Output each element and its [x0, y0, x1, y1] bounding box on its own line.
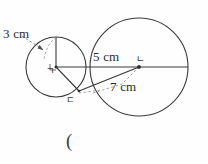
- figure-canvas: [0, 0, 208, 164]
- intersection-dot: [78, 90, 81, 93]
- small-center-to-intersection-line: [56, 67, 79, 91]
- three-cm-dashed-arc: [44, 37, 56, 60]
- large-center-dot: [137, 65, 141, 69]
- point-label-large-center: ㄴ: [136, 54, 145, 64]
- radius-large-label: 5 cm: [93, 50, 119, 63]
- three-cm-arrow-icon: [38, 45, 44, 50]
- point-label-small-center: ㄱ: [46, 66, 55, 76]
- point-label-intersection: ㄷ: [66, 95, 75, 105]
- radius-small-label: 3 cm: [3, 27, 29, 40]
- geometry-figure: 3 cm 5 cm 7 cm ㄱ ㄴ ㄷ (: [0, 0, 208, 164]
- segment-length-label: 7 cm: [110, 80, 136, 93]
- answer-parenthesis: (: [66, 131, 72, 150]
